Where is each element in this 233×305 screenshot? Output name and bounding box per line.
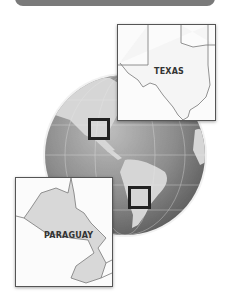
paraguay-inset-map: PARAGUAY (15, 177, 113, 287)
texas-label: TEXAS (154, 67, 184, 76)
texas-inset-map: TEXAS (117, 24, 216, 121)
paraguay-label: PARAGUAY (44, 231, 93, 240)
texas-locator-box (88, 118, 110, 140)
paraguay-locator-box (128, 186, 151, 209)
